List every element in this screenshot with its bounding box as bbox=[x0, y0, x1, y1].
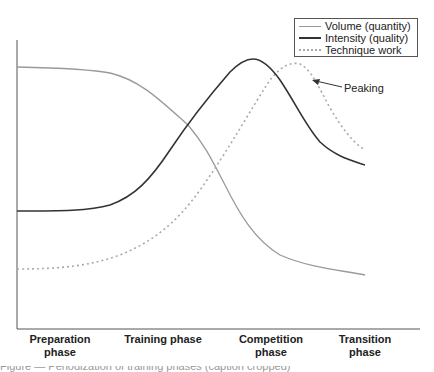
legend-label: Technique work bbox=[325, 44, 401, 56]
x-label-transition: Transition phase bbox=[315, 333, 415, 359]
legend-item-intensity: Intensity (quality) bbox=[299, 32, 413, 44]
legend-item-technique: Technique work bbox=[299, 44, 413, 56]
x-label-preparation: Preparation phase bbox=[10, 333, 110, 359]
figure-caption: Figure — Periodization of training phase… bbox=[0, 366, 434, 372]
legend: Volume (quantity) Intensity (quality) Te… bbox=[294, 18, 418, 57]
legend-label: Volume (quantity) bbox=[325, 20, 411, 32]
x-label-line: phase bbox=[315, 346, 415, 359]
caption-text: Figure — Periodization of training phase… bbox=[0, 366, 290, 372]
x-label-line: phase bbox=[10, 346, 110, 359]
x-label-line: Training phase bbox=[113, 333, 213, 346]
volume-line-swatch-icon bbox=[299, 26, 321, 27]
x-label-line: Transition bbox=[315, 333, 415, 346]
technique-line-swatch-icon bbox=[299, 49, 321, 51]
intensity-line-swatch-icon bbox=[299, 37, 321, 39]
series-technique-line bbox=[17, 63, 365, 269]
peaking-annotation: Peaking bbox=[344, 82, 384, 94]
peaking-arrow bbox=[316, 81, 342, 87]
legend-item-volume: Volume (quantity) bbox=[299, 20, 413, 32]
x-label-line: Competition bbox=[221, 333, 321, 346]
series-intensity-line bbox=[17, 59, 365, 211]
arrowhead-icon bbox=[312, 79, 320, 85]
x-label-competition: Competition phase bbox=[221, 333, 321, 359]
x-label-training: Training phase bbox=[113, 333, 213, 346]
x-label-line: phase bbox=[221, 346, 321, 359]
series-volume-line bbox=[17, 67, 365, 275]
x-label-line: Preparation bbox=[10, 333, 110, 346]
legend-label: Intensity (quality) bbox=[325, 32, 408, 44]
